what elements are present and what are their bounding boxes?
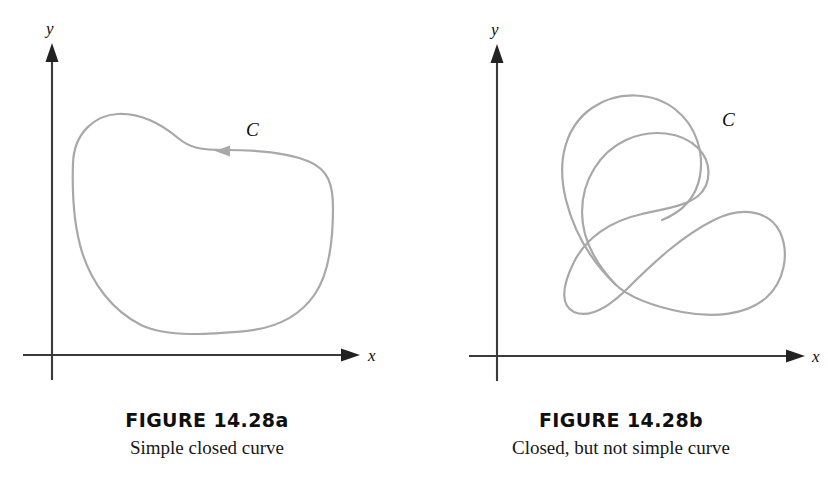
figure-b-caption-subtitle: Closed, but not simple curve xyxy=(414,435,828,461)
figure-b-plot: y x C xyxy=(414,0,828,400)
figure-b-caption-title: FIGURE 14.28b xyxy=(414,408,828,432)
x-axis-label-a: x xyxy=(367,346,376,365)
x-axis-b xyxy=(469,350,805,363)
y-axis-a xyxy=(46,43,59,380)
figure-b-caption: FIGURE 14.28b Closed, but not simple cur… xyxy=(414,408,828,461)
curve-label-a: C xyxy=(246,119,259,140)
figure-a-caption-title: FIGURE 14.28a xyxy=(0,408,414,432)
x-axis-label-b: x xyxy=(811,347,820,366)
simple-closed-curve xyxy=(73,114,333,334)
closed-nonsimple-curve-lobe xyxy=(562,95,701,285)
figure-panel-b: y x C FIGURE 14.28b Closed, but not simp… xyxy=(414,0,828,492)
x-axis-a xyxy=(23,349,360,362)
figure-a-caption-subtitle: Simple closed curve xyxy=(0,435,414,461)
y-axis-label-b: y xyxy=(489,20,499,39)
closed-nonsimple-curve-outer xyxy=(564,133,785,315)
y-axis-b xyxy=(491,44,504,381)
figure-a-caption: FIGURE 14.28a Simple closed curve xyxy=(0,408,414,461)
figure-page: y x C FIGURE 14.28a Simple closed curve xyxy=(0,0,828,492)
curve-direction-arrow-a xyxy=(215,146,230,157)
figure-panel-a: y x C FIGURE 14.28a Simple closed curve xyxy=(0,0,414,492)
figure-a-plot: y x C xyxy=(0,0,414,400)
y-axis-label-a: y xyxy=(44,19,54,38)
curve-label-b: C xyxy=(722,109,735,130)
